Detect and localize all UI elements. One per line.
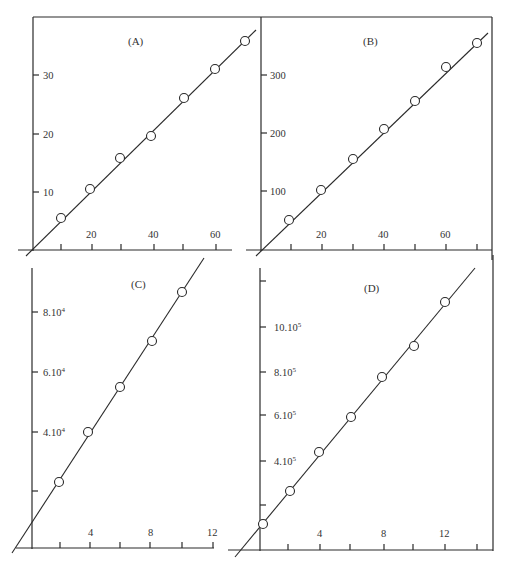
panel-c-fit-line (12, 258, 204, 553)
panel-d-x-label-8: 8 (381, 528, 386, 539)
panel-a-x-label-60: 60 (210, 229, 221, 240)
panel-c-y-label-8e4: 8.104 (43, 306, 65, 318)
panel-a-y-label-30: 30 (43, 70, 54, 81)
panel-a-x-ticks (61, 244, 216, 250)
panel-b-data-points (285, 39, 482, 225)
panel-b-y-ticks (261, 75, 267, 191)
panel-c-x-label-12: 12 (207, 527, 218, 538)
panel-b-y-label-100: 100 (270, 186, 286, 197)
panel-b-x-ticks (291, 244, 477, 250)
panel-d-x-label-4: 4 (317, 528, 323, 539)
panel-b-y-label-200: 200 (270, 128, 286, 139)
panel-a-y-label-10: 10 (43, 187, 54, 198)
panel-b-x-label-40: 40 (378, 229, 389, 240)
panel-d-y-label-6e5: 6.105 (274, 409, 296, 421)
panel-d-y-label-10e5: 10.105 (274, 321, 302, 333)
panel-c: 8.104 6.104 4.104 4 8 12 (C) (12, 258, 218, 553)
panel-c-title: (C) (131, 278, 146, 291)
panel-a: 30 20 10 20 40 60 (A) (18, 17, 256, 256)
panel-c-y-label-6e4: 6.104 (43, 366, 65, 378)
figure-four-panel-chart: 30 20 10 20 40 60 (A) (0, 0, 508, 566)
panel-d-x-ticks (288, 544, 477, 550)
panel-a-x-label-40: 40 (148, 229, 159, 240)
panel-a-y-ticks (33, 75, 39, 192)
panel-c-x-label-8: 8 (148, 527, 153, 538)
panel-b-x-label-20: 20 (316, 229, 327, 240)
panel-c-x-ticks (60, 542, 213, 548)
panel-d-fit-line (235, 268, 475, 557)
panel-a-title: (A) (128, 35, 144, 48)
panel-c-x-label-4: 4 (88, 527, 94, 538)
panel-b-title: (B) (363, 35, 378, 48)
panel-b-y-label-300: 300 (270, 70, 286, 81)
panel-d: 10.105 8.105 6.105 4.105 4 8 12 (D) (228, 255, 493, 557)
panel-d-y-label-8e5: 8.105 (274, 366, 296, 378)
panel-c-y-label-4e4: 4.104 (43, 426, 65, 438)
panel-a-y-label-20: 20 (43, 129, 54, 140)
panel-b: 300 200 100 20 40 60 (B) (246, 17, 492, 260)
panel-d-y-ticks (260, 281, 266, 505)
panel-d-x-label-12: 12 (439, 528, 450, 539)
panel-b-x-label-60: 60 (440, 229, 451, 240)
panel-d-y-label-4e5: 4.105 (274, 455, 296, 467)
panel-c-y-ticks (32, 312, 38, 491)
panel-d-title: (D) (364, 282, 380, 295)
panel-a-x-label-20: 20 (86, 229, 97, 240)
